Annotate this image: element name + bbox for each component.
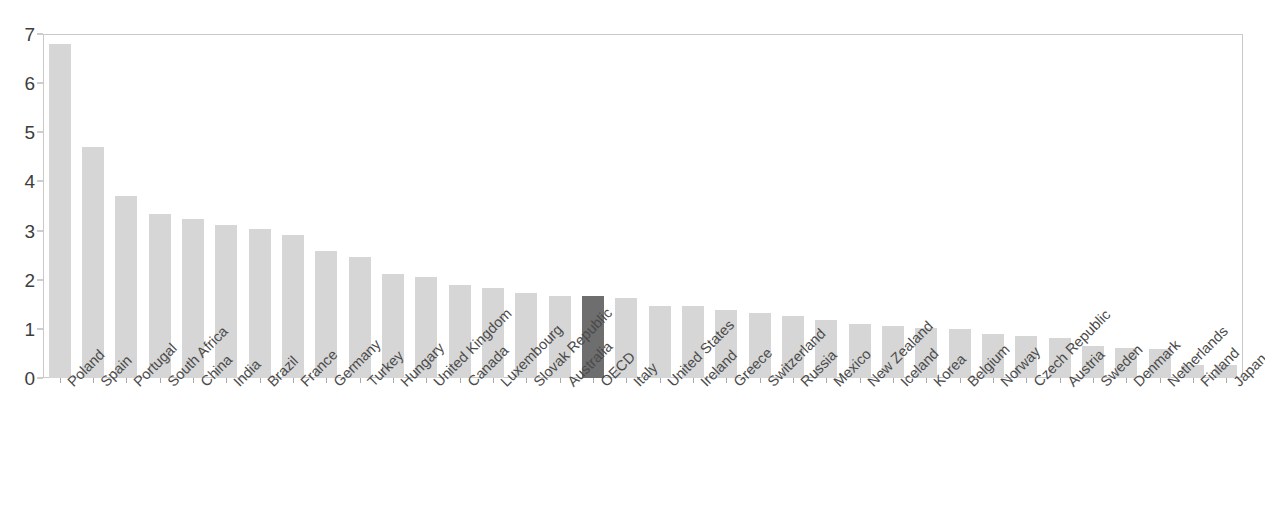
x-axis-tick-label: Portugal: [131, 379, 141, 389]
x-axis-tick-label: Spain: [98, 379, 108, 389]
x-axis-tick-label: Austria: [1065, 379, 1075, 389]
x-axis-tick-label: Belgium: [965, 379, 975, 389]
x-axis-tick-mark: [560, 378, 561, 383]
x-axis-tick-label: Netherlands: [1165, 379, 1175, 389]
x-axis-tick-mark: [726, 378, 727, 383]
y-axis-tick-label: 7: [24, 25, 35, 44]
x-axis-tick-mark: [693, 378, 694, 383]
x-axis-tick-label: Sweden: [1098, 379, 1108, 389]
y-axis: 01234567: [0, 34, 43, 378]
x-axis-tick-mark: [1160, 378, 1161, 383]
x-axis-tick-label: Turkey: [365, 379, 375, 389]
x-axis-tick-mark: [1093, 378, 1094, 383]
x-axis-tick-mark: [93, 378, 94, 383]
x-axis-tick-label: Ireland: [698, 379, 708, 389]
y-axis-tick-label: 4: [24, 172, 35, 191]
x-axis-tick-mark: [326, 378, 327, 383]
x-axis-tick-label: Canada: [465, 379, 475, 389]
x-axis-tick-mark: [1060, 378, 1061, 383]
x-axis-tick-label: Italy: [631, 379, 641, 389]
x-axis-tick-mark: [960, 378, 961, 383]
x-axis-tick-mark: [860, 378, 861, 383]
x-axis-tick-label: Korea: [931, 379, 941, 389]
x-axis-tick-label: Norway: [998, 379, 1008, 389]
x-axis-tick-label: Australia: [565, 379, 575, 389]
x-axis-tick-mark: [826, 378, 827, 383]
y-axis-tick-label: 2: [24, 270, 35, 289]
x-axis-tick-mark: [593, 378, 594, 383]
x-axis-tick-mark: [160, 378, 161, 383]
x-axis-tick-label: France: [298, 379, 308, 389]
x-axis-tick-label: United States: [665, 379, 675, 389]
x-axis-tick-label: Finland: [1198, 379, 1208, 389]
x-axis-tick-mark: [760, 378, 761, 383]
x-axis-tick-mark: [660, 378, 661, 383]
bar[interactable]: [115, 196, 137, 378]
x-axis-tick-mark: [626, 378, 627, 383]
x-axis-tick-mark: [426, 378, 427, 383]
x-axis-tick-mark: [1193, 378, 1194, 383]
x-axis-tick-mark: [493, 378, 494, 383]
x-axis-tick-mark: [993, 378, 994, 383]
x-axis-tick-label: Hungary: [398, 379, 408, 389]
x-axis-tick-label: Brazil: [265, 379, 275, 389]
x-axis-tick-label: OECD: [598, 379, 608, 389]
x-axis-tick-label: Japan: [1231, 379, 1241, 389]
bar[interactable]: [49, 44, 71, 378]
x-axis-tick-mark: [1026, 378, 1027, 383]
bar[interactable]: [82, 147, 104, 378]
x-axis-tick-label: Slovak Republic: [531, 379, 541, 389]
x-axis-tick-mark: [360, 378, 361, 383]
y-axis-tick-label: 6: [24, 74, 35, 93]
x-axis-tick-label: Greece: [731, 379, 741, 389]
x-axis-tick-mark: [793, 378, 794, 383]
x-axis-tick-mark: [460, 378, 461, 383]
x-axis-tick-mark: [126, 378, 127, 383]
x-axis-tick-mark: [893, 378, 894, 383]
y-axis-tick-label: 0: [24, 369, 35, 388]
bar-chart: 01234567 PolandSpainPortugalSouth Africa…: [0, 0, 1265, 506]
x-axis-tick-mark: [926, 378, 927, 383]
x-axis-tick-label: Russia: [798, 379, 808, 389]
x-axis-tick-label: Iceland: [898, 379, 908, 389]
x-axis-tick-mark: [60, 378, 61, 383]
x-axis-tick-mark: [1226, 378, 1227, 383]
x-axis-tick-label: India: [231, 379, 241, 389]
y-axis-tick-label: 5: [24, 123, 35, 142]
x-axis-tick-mark: [226, 378, 227, 383]
x-axis-tick-label: Czech Republic: [1031, 379, 1041, 389]
x-axis-tick-label: Switzerland: [765, 379, 775, 389]
x-axis-tick-mark: [526, 378, 527, 383]
x-axis-tick-label: United Kingdom: [431, 379, 441, 389]
x-axis-tick-mark: [1126, 378, 1127, 383]
x-axis-tick-mark: [393, 378, 394, 383]
y-axis-tick-label: 1: [24, 319, 35, 338]
y-axis-tick-label: 3: [24, 221, 35, 240]
x-axis-tick-mark: [293, 378, 294, 383]
x-axis-tick-label: South Africa: [165, 379, 175, 389]
x-axis-tick-label: Poland: [65, 379, 75, 389]
x-axis-tick-label: Mexico: [831, 379, 841, 389]
x-axis-tick-label: Denmark: [1131, 379, 1141, 389]
x-axis-tick-label: Germany: [331, 379, 341, 389]
x-axis-tick-label: New Zealand: [865, 379, 875, 389]
x-axis-tick-label: China: [198, 379, 208, 389]
x-axis-tick-label: Luxembourg: [498, 379, 508, 389]
x-axis-labels: PolandSpainPortugalSouth AfricaChinaIndi…: [43, 379, 1243, 506]
x-axis-tick-mark: [260, 378, 261, 383]
x-axis-tick-mark: [193, 378, 194, 383]
